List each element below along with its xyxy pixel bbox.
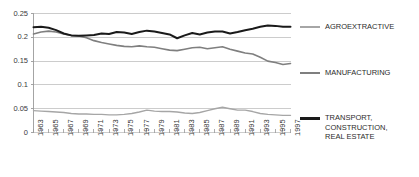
x-tick-label: 1987 bbox=[218, 119, 226, 136]
x-tick-label: 1985 bbox=[203, 119, 211, 136]
series-line bbox=[34, 25, 291, 38]
legend-swatch-manufacturing bbox=[300, 72, 320, 74]
x-tick-label: 1963 bbox=[37, 119, 45, 136]
y-tick-label: 0.2 bbox=[0, 33, 28, 41]
x-tick-label: 1967 bbox=[67, 119, 75, 136]
legend-swatch-transport-construction-real-estate bbox=[300, 117, 320, 120]
x-tick-label: 1977 bbox=[143, 119, 151, 136]
legend-item-agroextractive[interactable]: AGROEXTRACTIVE bbox=[300, 22, 394, 32]
y-tick-label: 0.05 bbox=[0, 105, 28, 113]
y-tick-label: 0.25 bbox=[0, 10, 28, 18]
gridlines bbox=[34, 14, 291, 133]
axis-lines bbox=[31, 14, 34, 133]
series-lines bbox=[34, 25, 291, 115]
legend-swatch-agroextractive bbox=[300, 26, 320, 28]
x-tick-label: 1989 bbox=[233, 119, 241, 136]
x-tick-label: 1993 bbox=[263, 119, 271, 136]
x-tick-label: 1983 bbox=[188, 119, 196, 136]
legend-item-manufacturing[interactable]: MANUFACTURING bbox=[300, 68, 390, 78]
legend-label-agroextractive: AGROEXTRACTIVE bbox=[325, 22, 394, 32]
x-tick-label: 1965 bbox=[52, 119, 60, 136]
x-tick-label: 1969 bbox=[82, 119, 90, 136]
x-tick-label: 1995 bbox=[279, 119, 287, 136]
x-tick-label: 1981 bbox=[173, 119, 181, 136]
legend-item-transport-construction-real-estate[interactable]: TRANSPORT, CONSTRUCTION, REAL ESTATE bbox=[300, 113, 388, 142]
x-tick-label: 1979 bbox=[158, 119, 166, 136]
y-tick-label: 0 bbox=[0, 129, 28, 137]
y-tick-label: 0.15 bbox=[0, 57, 28, 65]
legend-label-manufacturing: MANUFACTURING bbox=[325, 68, 390, 78]
x-tick-label: 1975 bbox=[127, 119, 135, 136]
legend-label-transport-construction-real-estate: TRANSPORT, CONSTRUCTION, REAL ESTATE bbox=[325, 113, 388, 142]
chart-container: 00.050.10.150.20.25 19631965196719691971… bbox=[0, 0, 419, 177]
x-tick-label: 1971 bbox=[97, 119, 105, 136]
x-tick-label: 1991 bbox=[248, 119, 256, 136]
x-tick-label: 1973 bbox=[112, 119, 120, 136]
y-tick-label: 0.1 bbox=[0, 81, 28, 89]
